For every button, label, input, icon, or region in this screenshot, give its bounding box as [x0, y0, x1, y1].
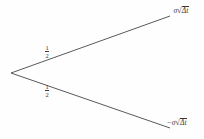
- fraction-numerator: 1: [45, 84, 49, 90]
- fraction-denominator: 2: [45, 92, 49, 98]
- binomial-tree-diagram: 1 2 1 2 σ√Δt −σ√Δt: [0, 0, 204, 139]
- fraction-numerator: 1: [45, 45, 49, 51]
- down-branch-line: [11, 73, 170, 128]
- one-half-fraction-up: 1 2: [45, 45, 49, 59]
- radicand-delta-t: Δt: [180, 118, 187, 127]
- one-half-fraction-down: 1 2: [45, 84, 49, 98]
- up-node-value-label: σ√Δt: [173, 6, 189, 15]
- up-branch-probability-label: 1 2: [45, 45, 49, 59]
- square-root-group-down: √Δt: [175, 118, 187, 127]
- down-branch-probability-label: 1 2: [45, 84, 49, 98]
- radicand-delta-t: Δt: [182, 6, 189, 15]
- down-value-sign: −: [167, 118, 171, 127]
- down-node-value-label: −σ√Δt: [167, 118, 187, 127]
- square-root-group-up: √Δt: [177, 6, 189, 15]
- up-branch-line: [11, 16, 170, 73]
- fraction-denominator: 2: [45, 53, 49, 59]
